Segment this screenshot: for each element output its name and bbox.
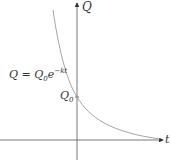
eq-sign: = [22, 68, 31, 81]
decay-graph [0, 0, 171, 167]
decay-curve [53, 10, 160, 139]
equation-label: Q = Q0e−kt [9, 67, 67, 83]
eq-base: Q [34, 68, 43, 81]
intercept-q: Q [60, 89, 69, 102]
x-axis-label: t [165, 133, 169, 146]
eq-lhs: Q [9, 68, 18, 81]
intercept-sub: 0 [69, 96, 73, 104]
intercept-label: Q0 [60, 89, 74, 104]
eq-exponent: −kt [54, 67, 67, 75]
y-axis-label: Q [82, 0, 92, 14]
